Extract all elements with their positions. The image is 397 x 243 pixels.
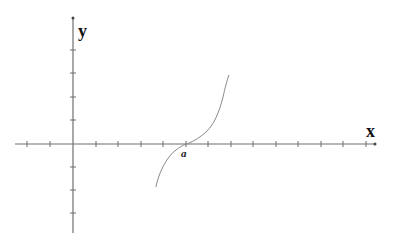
- x-axis-label: x: [366, 121, 375, 141]
- x-axis-arrow-icon: [374, 143, 377, 146]
- y-axis-label: y: [78, 21, 87, 41]
- y-axis-arrow-icon: [72, 17, 75, 20]
- function-curve: [156, 75, 229, 187]
- point-a-label: a: [181, 147, 187, 159]
- graph-canvas: y x a: [0, 0, 397, 243]
